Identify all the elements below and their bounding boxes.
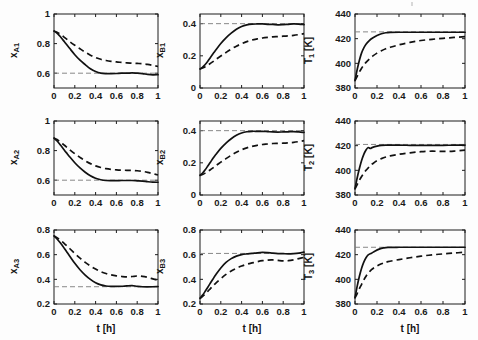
x-tick-label: 0.4 bbox=[235, 306, 249, 317]
panel-T1: 00.20.40.60.81380400420440 bbox=[333, 0, 478, 110]
y-tick-label: 0.8 bbox=[183, 224, 196, 235]
x-axis-label-xA3: t [h] bbox=[54, 323, 158, 334]
x-tick-label: 0.8 bbox=[436, 306, 449, 317]
y-tick-label: 400 bbox=[335, 58, 351, 69]
x-tick-label: 0.4 bbox=[89, 306, 103, 317]
x-tick-label: 0.2 bbox=[370, 306, 383, 317]
y-tick-label: 0.4 bbox=[37, 274, 51, 285]
y-tick-label: 420 bbox=[335, 140, 351, 151]
y-tick-label: 0.6 bbox=[37, 175, 50, 186]
x-tick-label: 1 bbox=[301, 306, 307, 317]
y-tick-label: 1 bbox=[45, 115, 51, 126]
x-tick-label: 0.2 bbox=[68, 306, 81, 317]
panel-T3: 00.20.40.60.81380400420440 bbox=[333, 208, 478, 326]
y-axis-label-xB3: xB3 bbox=[154, 240, 167, 294]
y-tick-label: 0.8 bbox=[37, 145, 50, 156]
y-tick-label: 420 bbox=[335, 249, 351, 260]
plot-frame bbox=[355, 121, 465, 195]
x-tick-label: 0.4 bbox=[392, 306, 406, 317]
x-tick-label: 0.6 bbox=[110, 306, 123, 317]
figure-canvas: 00.20.40.60.810.60.81xA100.20.40.60.8100… bbox=[0, 0, 478, 340]
x-tick-label: 0.2 bbox=[214, 306, 227, 317]
curve-T2-dashed bbox=[355, 150, 465, 189]
x-tick-label: 0.2 bbox=[370, 197, 383, 208]
x-tick-label: 0 bbox=[197, 306, 202, 317]
x-tick-label: 0 bbox=[197, 197, 202, 208]
y-tick-label: 440 bbox=[335, 115, 351, 126]
x-tick-label: 1 bbox=[155, 306, 161, 317]
curve-xB1-solid bbox=[200, 24, 304, 69]
y-tick-label: 440 bbox=[335, 224, 351, 235]
curve-xA1-solid bbox=[54, 31, 158, 75]
y-tick-label: 0.4 bbox=[183, 274, 197, 285]
curve-xB2-dashed bbox=[200, 141, 304, 176]
y-axis-label-xB2: xB2 bbox=[154, 131, 167, 185]
x-tick-label: 0.6 bbox=[256, 197, 269, 208]
y-tick-label: 0.2 bbox=[183, 298, 196, 309]
x-tick-label: 0 bbox=[352, 197, 357, 208]
y-tick-label: 0.4 bbox=[183, 125, 197, 136]
y-axis-label-xA3: xA3 bbox=[8, 240, 21, 294]
plot-frame bbox=[355, 230, 465, 304]
y-tick-label: 380 bbox=[335, 298, 351, 309]
x-tick-label: 0.6 bbox=[414, 306, 427, 317]
x-tick-label: 0 bbox=[51, 306, 56, 317]
y-tick-label: 0.4 bbox=[183, 18, 197, 29]
x-tick-label: 1 bbox=[462, 306, 468, 317]
x-tick-label: 0.8 bbox=[436, 197, 449, 208]
x-tick-label: 0.8 bbox=[131, 306, 144, 317]
x-axis-label-xB3: t [h] bbox=[200, 323, 304, 334]
plot-frame bbox=[200, 230, 304, 304]
x-tick-label: 0.8 bbox=[277, 197, 290, 208]
plot-frame bbox=[54, 121, 158, 195]
x-tick-label: 0.4 bbox=[235, 197, 249, 208]
x-tick-label: 0.4 bbox=[89, 197, 103, 208]
curve-T1-dashed bbox=[355, 37, 465, 81]
x-tick-label: 0.8 bbox=[277, 306, 290, 317]
x-tick-label: 0 bbox=[51, 197, 56, 208]
curve-T3-solid bbox=[355, 247, 465, 298]
y-tick-label: 0.6 bbox=[37, 249, 50, 260]
x-tick-label: 0.2 bbox=[214, 197, 227, 208]
curve-T3-dashed bbox=[355, 252, 465, 298]
curve-xA3-dashed bbox=[54, 236, 158, 280]
x-tick-label: 1 bbox=[155, 197, 161, 208]
curve-xB3-solid bbox=[200, 252, 304, 298]
x-tick-label: 0.6 bbox=[256, 306, 269, 317]
plot-frame bbox=[54, 14, 158, 88]
y-axis-label-xA2: xA2 bbox=[8, 131, 21, 185]
x-tick-label: 0 bbox=[352, 306, 357, 317]
y-tick-label: 0.2 bbox=[37, 298, 50, 309]
y-tick-label: 1 bbox=[45, 8, 51, 19]
y-tick-label: 0 bbox=[191, 189, 196, 200]
y-tick-label: 0 bbox=[191, 82, 196, 93]
y-tick-label: 440 bbox=[335, 8, 351, 19]
y-tick-label: 0.8 bbox=[37, 224, 50, 235]
y-tick-label: 0.8 bbox=[37, 38, 50, 49]
y-tick-label: 0.6 bbox=[183, 249, 196, 260]
curve-T1-solid bbox=[355, 32, 465, 80]
x-tick-label: 0.6 bbox=[414, 197, 427, 208]
panel-T2: 00.20.40.60.81380400420440 bbox=[333, 99, 478, 217]
curve-xB3-dashed bbox=[200, 257, 304, 298]
curve-xB2-solid bbox=[200, 131, 304, 175]
x-tick-label: 0.4 bbox=[392, 197, 406, 208]
y-axis-label-xB1: xB1 bbox=[154, 24, 167, 78]
y-axis-label-T3: T3 [K] bbox=[303, 240, 316, 294]
y-tick-label: 0.2 bbox=[183, 50, 196, 61]
x-axis-label-T3: t [h] bbox=[355, 323, 465, 334]
plot-frame bbox=[355, 14, 465, 88]
x-tick-label: 0.2 bbox=[68, 197, 81, 208]
x-tick-label: 1 bbox=[462, 197, 468, 208]
plot-frame bbox=[54, 230, 158, 304]
x-tick-label: 1 bbox=[301, 197, 307, 208]
y-tick-label: 420 bbox=[335, 33, 351, 44]
y-tick-label: 380 bbox=[335, 189, 351, 200]
y-axis-label-xA1: xA1 bbox=[8, 24, 21, 78]
y-tick-label: 0.6 bbox=[37, 68, 50, 79]
y-axis-label-T2: T2 [K] bbox=[303, 131, 316, 185]
y-tick-label: 400 bbox=[335, 165, 351, 176]
y-tick-label: 0.2 bbox=[183, 157, 196, 168]
x-tick-label: 0.6 bbox=[110, 197, 123, 208]
y-tick-label: 400 bbox=[335, 274, 351, 285]
